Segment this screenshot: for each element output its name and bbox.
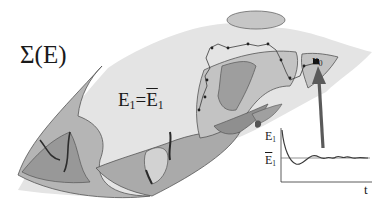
inset-x-label: t — [364, 183, 368, 196]
start-point-label: x0 — [312, 53, 323, 68]
inset-y-label-top: E1 — [265, 130, 276, 143]
surface-label: Σ(E) — [20, 42, 66, 67]
equation-label: E1=E1 — [118, 90, 164, 112]
surface-island — [227, 11, 285, 29]
inset-signal-curve — [282, 130, 368, 164]
inset-plot — [281, 128, 372, 182]
energy-surface-diagram — [0, 0, 390, 208]
inset-y-label-mean: E1 — [265, 154, 276, 167]
